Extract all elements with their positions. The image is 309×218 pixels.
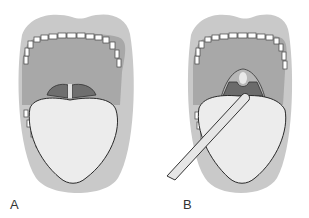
panel-label-a: A <box>10 197 19 212</box>
uvula <box>239 72 247 84</box>
mouth-illustration-b <box>155 0 309 218</box>
panel-label-b: B <box>183 197 192 212</box>
uvula <box>68 84 72 98</box>
mouth-illustration-a <box>0 0 155 218</box>
panel-a: A <box>0 0 155 218</box>
panel-b: B <box>155 0 309 218</box>
